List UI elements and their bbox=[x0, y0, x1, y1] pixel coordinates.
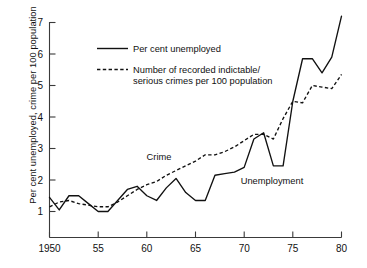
annotation-crime: Crime bbox=[147, 152, 172, 162]
y-tick-label-1: 1 bbox=[37, 206, 43, 217]
y-tick-label-7: 7 bbox=[37, 17, 43, 28]
axes bbox=[50, 22, 342, 238]
y-tick-marks bbox=[50, 23, 56, 212]
x-tick-label-75: 75 bbox=[287, 243, 299, 254]
y-tick-labels: 7 6 5 4 3 2 1 bbox=[37, 17, 43, 217]
x-tick-label-55: 55 bbox=[93, 243, 105, 254]
x-tick-marks bbox=[50, 232, 342, 238]
x-tick-label-1950: 1950 bbox=[38, 243, 61, 254]
y-tick-label-4: 4 bbox=[37, 112, 43, 123]
line-chart-plot: 7 6 5 4 3 2 1 1950 55 60 65 70 75 80 bbox=[0, 0, 367, 268]
x-tick-label-65: 65 bbox=[190, 243, 202, 254]
plot-annotations: Crime Unemployment bbox=[147, 152, 304, 186]
chart-legend: Per cent unemployed Number of recorded i… bbox=[97, 44, 273, 87]
y-tick-label-3: 3 bbox=[37, 143, 43, 154]
annotation-unemployment: Unemployment bbox=[241, 176, 304, 186]
y-tick-label-5: 5 bbox=[37, 80, 43, 91]
y-tick-label-6: 6 bbox=[37, 49, 43, 60]
legend-label-crime-line1: Number of recorded indictable/ bbox=[133, 65, 261, 75]
y-tick-label-2: 2 bbox=[37, 175, 43, 186]
x-tick-label-60: 60 bbox=[141, 243, 153, 254]
x-tick-labels: 1950 55 60 65 70 75 80 bbox=[38, 243, 347, 254]
x-tick-label-70: 70 bbox=[239, 243, 251, 254]
legend-label-crime-line2: serious crimes per 100 population bbox=[133, 76, 273, 86]
legend-label-unemployed: Per cent unemployed bbox=[133, 44, 221, 54]
chart-figure: Per cent unemployed, crime per 100 popul… bbox=[0, 0, 367, 268]
series-line-crime bbox=[50, 74, 342, 206]
x-tick-label-80: 80 bbox=[336, 243, 348, 254]
